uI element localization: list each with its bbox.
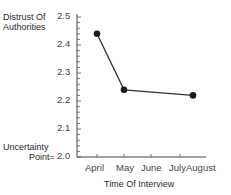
- y-tick-label: 2.4: [57, 38, 70, 49]
- y-axis-title-line1: Distrust Of: [3, 12, 46, 22]
- uncertainty-label-line2: Point=: [29, 152, 55, 162]
- y-tick-label: 2.3: [57, 66, 70, 77]
- y-tick-label: 2.1: [57, 122, 70, 133]
- x-axis-title: Time Of Interview: [104, 179, 174, 189]
- x-tick-label: August: [186, 162, 216, 173]
- y-tick-label: 2.5: [57, 10, 70, 21]
- x-tick-label: April: [85, 162, 104, 173]
- y-tick-label: 2.0: [57, 150, 70, 161]
- uncertainty-label-line1: Uncertainty: [3, 142, 49, 152]
- x-tick-label: July: [169, 162, 186, 173]
- x-tick-label: May: [116, 162, 134, 173]
- x-tick-label: June: [141, 162, 162, 173]
- y-tick-label: 2.2: [57, 94, 70, 105]
- y-axis-title-line2: Authorities: [3, 22, 46, 32]
